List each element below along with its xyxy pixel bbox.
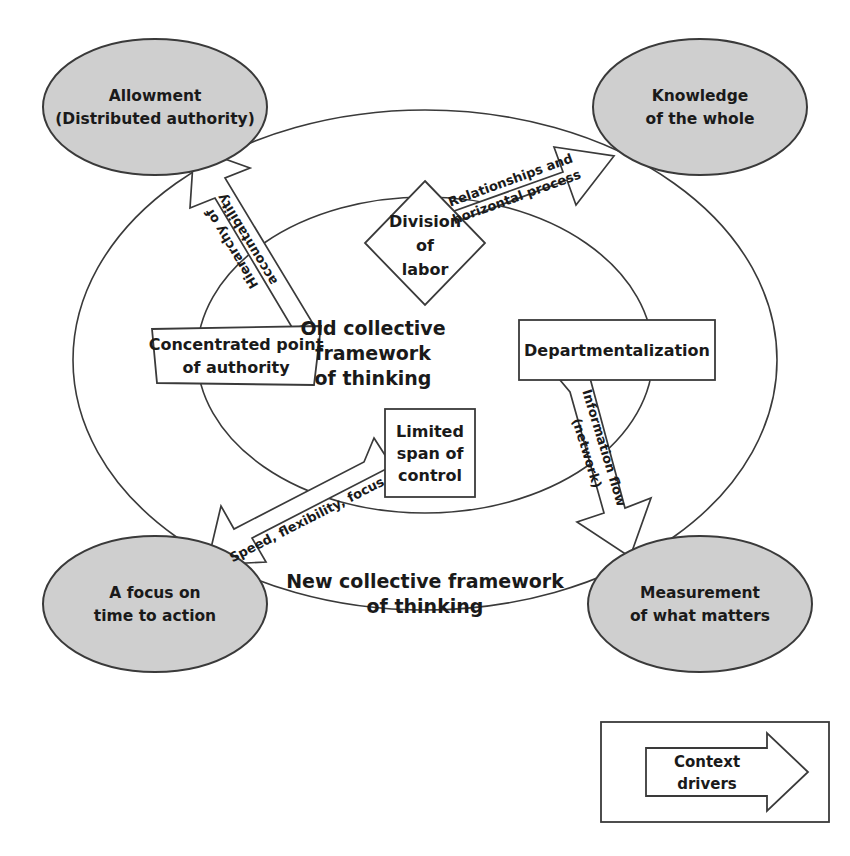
node-concentrated-authority-line2: of authority: [182, 358, 290, 377]
framework-new-line2: of thinking: [367, 595, 484, 617]
arrow-label-relationships-horizontal: Relationships and horizontal process: [444, 150, 583, 227]
node-limited-span-line3: control: [398, 466, 462, 485]
framework-new-line1: New collective framework: [286, 570, 564, 592]
node-limited-span-line1: Limited: [396, 422, 464, 441]
node-focus-time-line1: A focus on: [109, 584, 200, 602]
node-measurement-line1: Measurement: [640, 584, 761, 602]
context-driver-arrow-speed-flexibility-focus: [207, 438, 392, 565]
framework-old-line1: Old collective: [300, 317, 445, 339]
framework-diagram: Allowment (Distributed authority) Knowle…: [0, 0, 850, 856]
node-division-of-labor-line2: of: [416, 236, 435, 255]
node-measurement: [588, 536, 812, 672]
node-knowledge: [593, 39, 807, 175]
node-allowment-line2: (Distributed authority): [55, 110, 255, 128]
node-measurement-line2: of what matters: [630, 607, 770, 625]
framework-old-line2: framework: [315, 342, 431, 364]
node-focus-time-line2: time to action: [94, 607, 216, 625]
node-allowment-line1: Allowment: [109, 87, 202, 105]
node-concentrated-authority-line1: Concentrated point: [149, 335, 324, 354]
legend-label-line1: Context: [674, 753, 740, 771]
legend-label-line2: drivers: [677, 775, 737, 793]
node-limited-span-line2: span of: [397, 444, 465, 463]
node-departmentalization-line1: Departmentalization: [524, 341, 710, 360]
node-knowledge-line1: Knowledge: [652, 87, 749, 105]
node-allowment: [43, 39, 267, 175]
node-division-of-labor-line3: labor: [402, 260, 449, 279]
diagram-root: Allowment (Distributed authority) Knowle…: [0, 0, 850, 856]
node-knowledge-line2: of the whole: [646, 110, 755, 128]
framework-old-line3: of thinking: [315, 367, 432, 389]
